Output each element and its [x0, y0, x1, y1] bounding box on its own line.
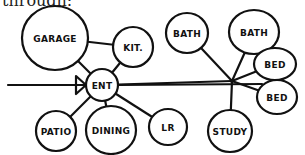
- node-patio: PATIO: [36, 111, 76, 151]
- entry-arrow: [8, 76, 262, 94]
- node-garage: GARAGE: [22, 6, 88, 70]
- node-label: BATH: [240, 28, 268, 38]
- nodes: GARAGEKIT.BATHBATHBEDBEDENTPATIODININGLR…: [22, 6, 297, 154]
- node-label: ENT: [92, 81, 113, 91]
- node-bath1: BATH: [166, 13, 208, 53]
- node-dining: DINING: [86, 106, 136, 154]
- node-kit: KIT.: [113, 27, 153, 67]
- node-study: STUDY: [208, 110, 252, 152]
- node-label: DINING: [92, 126, 130, 136]
- node-label: GARAGE: [33, 34, 77, 44]
- node-label: BED: [266, 93, 287, 103]
- node-label: LR: [161, 123, 174, 133]
- node-ent: ENT: [86, 69, 118, 101]
- hub-junction: [230, 79, 234, 83]
- node-lr: LR: [149, 109, 187, 145]
- node-bed1: BED: [254, 48, 296, 80]
- bubble-diagram: GARAGEKIT.BATHBATHBEDBEDENTPATIODININGLR…: [0, 0, 305, 155]
- node-label: STUDY: [213, 127, 248, 137]
- node-label: BED: [264, 60, 285, 70]
- node-bed2: BED: [257, 80, 297, 114]
- node-label: BATH: [173, 29, 201, 39]
- through-line: [118, 84, 262, 85]
- node-label: PATIO: [41, 127, 72, 137]
- node-label: KIT.: [123, 43, 143, 53]
